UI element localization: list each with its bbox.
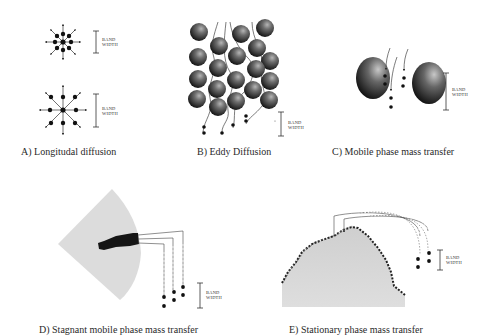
band-width-bar-icon [93, 94, 99, 127]
band-width-label: BANDWIDTH [288, 120, 304, 130]
packed-particles [188, 19, 279, 116]
panel-c-mobile-phase-mass-transfer [356, 48, 449, 110]
stationary-particle [282, 227, 405, 307]
panel-a-longitudinal-diffusion [40, 25, 99, 134]
panel-e-stationary-phase [282, 212, 443, 307]
band-width-label: BANDWIDTH [102, 37, 118, 47]
band-width-label: BANDWIDTH [452, 87, 468, 97]
band-width-bar-icon [278, 112, 284, 136]
particle-right [412, 62, 446, 104]
band-width-label: BANDWIDTH [446, 255, 462, 265]
band-width-label: BANDWIDTH [206, 290, 222, 300]
caption-panel-a: A) Longitudal diffusion [21, 146, 116, 157]
particle-left [356, 57, 390, 99]
caption-panel-e: E) Stationary phase mass transfer [289, 324, 423, 335]
caption-panel-b: B) Eddy Diffusion [197, 146, 271, 157]
band-width-bar-icon [93, 31, 99, 53]
diagram-canvas [0, 0, 489, 336]
band-width-label: BANDWIDTH [102, 106, 118, 116]
caption-panel-d: D) Stagnant mobile phase mass transfer [39, 324, 198, 335]
band-width-bar-icon [437, 250, 443, 270]
panel-b-eddy-diffusion [188, 19, 284, 136]
analyte-molecules [202, 114, 248, 135]
panel-d-stagnant-mobile-phase [58, 189, 203, 308]
caption-panel-c: C) Mobile phase mass transfer [332, 146, 454, 157]
band-width-bar-icon [197, 283, 203, 308]
